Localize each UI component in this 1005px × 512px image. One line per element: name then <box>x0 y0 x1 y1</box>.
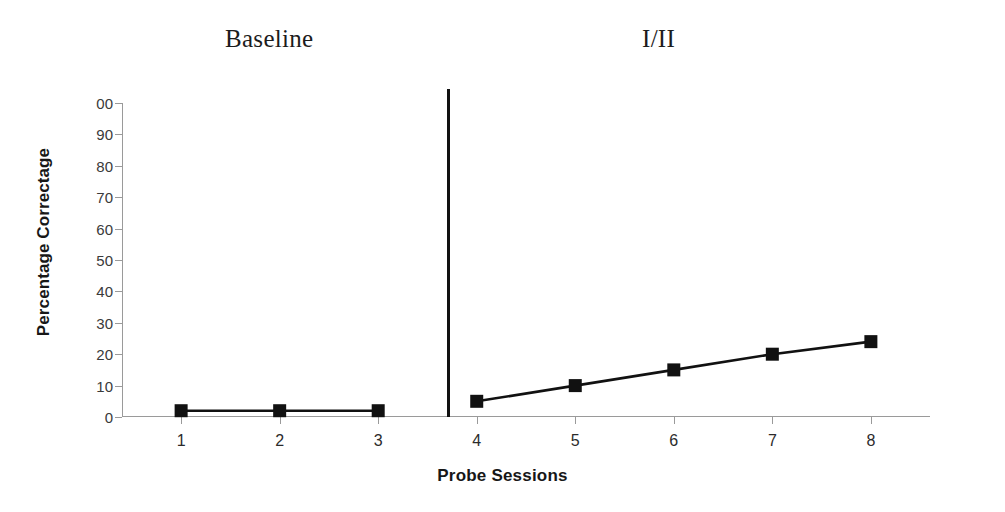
data-point-marker <box>273 404 286 417</box>
y-tick-mark <box>115 291 122 292</box>
data-point-marker <box>175 404 188 417</box>
x-tick-label: 6 <box>669 432 678 450</box>
data-point-marker <box>766 348 779 361</box>
y-tick-mark <box>115 260 122 261</box>
y-tick-label: 60 <box>96 220 113 237</box>
y-tick-mark <box>115 417 122 418</box>
y-tick-mark <box>115 103 122 104</box>
data-point-marker <box>569 379 582 392</box>
x-tick-mark <box>378 417 379 424</box>
x-axis-title: Probe Sessions <box>0 466 1005 486</box>
x-tick-label: 2 <box>275 432 284 450</box>
y-tick-mark <box>115 166 122 167</box>
x-tick-label: 5 <box>571 432 580 450</box>
phase-label-baseline: Baseline <box>225 25 313 53</box>
y-tick-label: 50 <box>96 252 113 269</box>
data-point-marker <box>470 395 483 408</box>
x-tick-mark <box>772 417 773 424</box>
y-tick-mark <box>115 197 122 198</box>
data-point-marker <box>667 363 680 376</box>
y-tick-mark <box>115 354 122 355</box>
y-tick-label: 40 <box>96 283 113 300</box>
y-tick-label: 30 <box>96 314 113 331</box>
plot-area: 009080706050403020100 12345678 <box>122 103 930 417</box>
chart-figure: Baseline I/II Percentage Correctage Prob… <box>0 0 1005 512</box>
y-tick-label: 00 <box>96 95 113 112</box>
y-tick-mark <box>115 323 122 324</box>
y-tick-label: 0 <box>105 409 113 426</box>
x-tick-mark <box>181 417 182 424</box>
x-tick-label: 4 <box>472 432 481 450</box>
y-tick-label: 80 <box>96 157 113 174</box>
x-tick-mark <box>871 417 872 424</box>
y-tick-mark <box>115 134 122 135</box>
y-tick-label: 90 <box>96 126 113 143</box>
y-tick-label: 10 <box>96 377 113 394</box>
x-tick-mark <box>575 417 576 424</box>
data-series-layer <box>122 103 930 417</box>
phase-label-intervention: I/II <box>642 25 675 53</box>
x-tick-label: 8 <box>866 432 875 450</box>
y-tick-mark <box>115 229 122 230</box>
x-tick-label: 1 <box>177 432 186 450</box>
y-tick-mark <box>115 386 122 387</box>
x-tick-label: 7 <box>768 432 777 450</box>
x-tick-mark <box>674 417 675 424</box>
x-tick-label: 3 <box>374 432 383 450</box>
x-tick-mark <box>280 417 281 424</box>
data-point-marker <box>864 335 877 348</box>
x-tick-mark <box>477 417 478 424</box>
y-tick-label: 20 <box>96 346 113 363</box>
y-axis-title: Percentage Correctage <box>34 112 54 372</box>
data-point-marker <box>372 404 385 417</box>
y-tick-label: 70 <box>96 189 113 206</box>
